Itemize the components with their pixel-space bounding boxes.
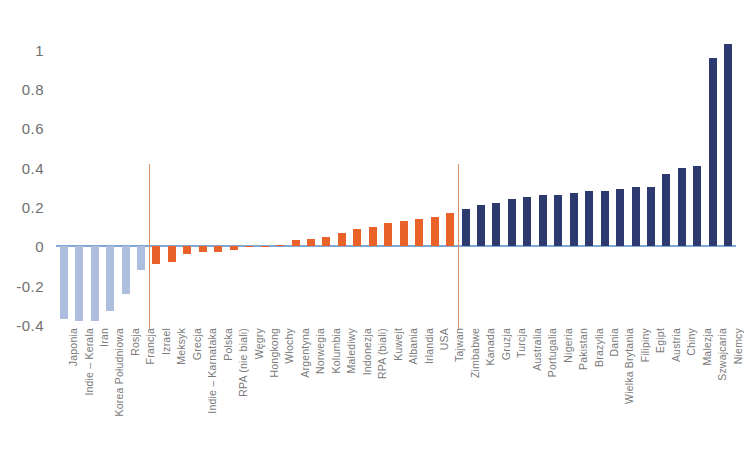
y-tick-label: 0.6 — [0, 120, 44, 137]
bar — [245, 246, 253, 247]
y-tick-label: 0.8 — [0, 81, 44, 98]
category-label: Kolumbia — [331, 328, 342, 373]
y-tick-label: 0 — [0, 238, 44, 255]
category-label: Chiny — [686, 328, 697, 356]
bar — [693, 166, 701, 247]
bar — [662, 174, 670, 247]
category-label: Australia — [532, 328, 543, 371]
category-label: Niemcy — [733, 328, 744, 364]
bar — [400, 221, 408, 247]
bar — [322, 237, 330, 247]
category-label: Pakistan — [578, 328, 589, 370]
y-tick-label: -0.2 — [0, 277, 44, 294]
bar — [384, 223, 392, 247]
category-label: Kanada — [485, 328, 496, 365]
bar — [462, 209, 470, 246]
category-label: Francja — [145, 328, 156, 364]
plot-area — [56, 40, 736, 325]
category-label: Filipiny — [640, 328, 651, 362]
y-tick-label: 0.4 — [0, 159, 44, 176]
category-label: Egipt — [655, 328, 666, 353]
category-label: Grecja — [192, 328, 203, 360]
y-tick-label: 0.2 — [0, 199, 44, 216]
category-label: Dania — [609, 328, 620, 356]
bar — [230, 246, 238, 250]
bar — [632, 187, 640, 246]
bar — [106, 246, 114, 311]
category-label: RPA (nie biali) — [238, 328, 249, 397]
bar — [137, 246, 145, 270]
bar — [214, 246, 222, 252]
bar — [369, 227, 377, 247]
bar — [724, 44, 732, 246]
category-label: Nigeria — [563, 328, 574, 363]
category-label: Tajwan — [454, 328, 465, 362]
bar — [492, 203, 500, 246]
category-label: Hongkong — [269, 328, 280, 377]
category-label: Indie – Kerala — [84, 328, 95, 396]
category-label: Zimbabwe — [470, 328, 481, 378]
category-label: Malezja — [702, 328, 713, 366]
bar — [539, 195, 547, 246]
y-tick-label: 1 — [0, 41, 44, 58]
category-label: Szwajcaria — [717, 328, 728, 381]
category-label: Japonia — [68, 328, 79, 366]
category-label: Turcja — [516, 328, 527, 358]
bar — [616, 189, 624, 246]
category-label: Kuwejt — [393, 328, 404, 361]
bar — [446, 213, 454, 246]
bar — [75, 246, 83, 321]
bar — [122, 246, 130, 293]
category-axis-labels: JaponiaIndie – KeralaIranKorea Południow… — [56, 328, 736, 449]
bar — [508, 199, 516, 246]
bar — [261, 246, 269, 247]
category-label: Izrael — [161, 328, 172, 355]
category-label: Rosja — [130, 328, 141, 356]
bar — [307, 239, 315, 247]
bar — [570, 193, 578, 246]
category-label: Meksyk — [176, 328, 187, 365]
bar — [353, 229, 361, 247]
bar — [338, 233, 346, 247]
group-separator-line — [458, 164, 460, 329]
bar — [183, 246, 191, 254]
category-label: Węgry — [254, 328, 265, 359]
bar — [292, 240, 300, 246]
bar — [601, 191, 609, 246]
bar — [60, 246, 68, 319]
category-label: Indie – Karnataka — [207, 328, 218, 414]
bar — [199, 246, 207, 252]
y-tick-label: -0.4 — [0, 317, 44, 334]
category-label: Irlandia — [424, 328, 435, 364]
category-label: Brazylia — [594, 328, 605, 367]
category-label: Austria — [671, 328, 682, 362]
bar — [585, 191, 593, 246]
category-label: Iran — [99, 328, 110, 347]
bar — [152, 246, 160, 264]
category-label: USA — [439, 328, 450, 350]
category-label: Korea Południowa — [114, 328, 125, 416]
category-label: Albania — [408, 328, 419, 364]
category-label: Indonezja — [362, 328, 373, 375]
bar — [168, 246, 176, 262]
bar — [523, 197, 531, 246]
bar — [678, 168, 686, 247]
category-label: Malediwy — [346, 328, 357, 373]
group-separator-line — [149, 164, 151, 329]
bar — [477, 205, 485, 246]
category-label: Gruzja — [501, 328, 512, 360]
category-label: RPA (biali) — [377, 328, 388, 379]
bar — [554, 195, 562, 246]
bar — [91, 246, 99, 321]
category-label: Portugalia — [547, 328, 558, 377]
category-label: Argentyna — [300, 328, 311, 378]
bar — [276, 245, 284, 246]
bar — [415, 219, 423, 247]
category-label: Norwegia — [315, 328, 326, 374]
bar — [431, 217, 439, 246]
category-label: Polska — [223, 328, 234, 361]
bar — [647, 187, 655, 246]
bar — [709, 58, 717, 247]
category-label: Włochy — [284, 328, 295, 364]
